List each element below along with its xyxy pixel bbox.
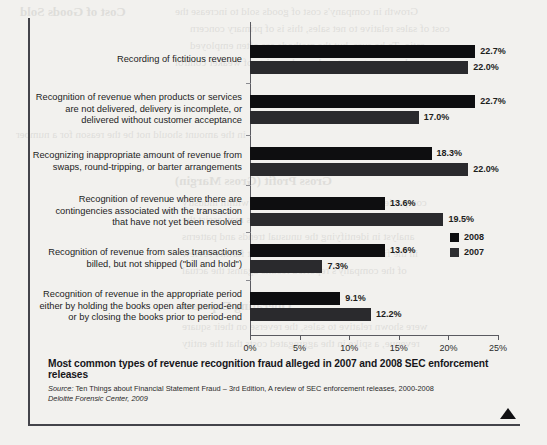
category-label-line: contingencies associated with the transa… bbox=[27, 206, 242, 217]
bar-2007 bbox=[250, 163, 468, 176]
category-label-line: Recording of fictitious revenue bbox=[27, 54, 242, 65]
bar-value-label: 9.1% bbox=[345, 292, 366, 305]
legend-swatch-2007 bbox=[450, 248, 459, 257]
x-axis-tick bbox=[349, 335, 350, 340]
bar-value-label: 18.3% bbox=[437, 147, 463, 160]
category-label: Recognition of revenue from sales transa… bbox=[27, 247, 242, 270]
category-label-line: are not delivered, delivery is incomplet… bbox=[27, 104, 242, 115]
source-prefix: Source: bbox=[48, 384, 73, 393]
x-axis-tick-label: 5% bbox=[293, 343, 306, 353]
x-axis-tick-label: 0% bbox=[243, 343, 256, 353]
bar-value-label: 22.0% bbox=[473, 61, 499, 74]
bar-value-label: 12.2% bbox=[376, 308, 402, 321]
chart-caption: Most common types of revenue recognition… bbox=[48, 358, 508, 380]
bar-2008 bbox=[250, 95, 475, 108]
bar-value-label: 22.7% bbox=[480, 95, 506, 108]
chart-source-note: Source: Ten Things about Financial State… bbox=[48, 384, 503, 404]
x-axis-tick bbox=[300, 335, 301, 340]
bar-value-label: 19.5% bbox=[448, 213, 474, 226]
chart-plot-area: Recording of fictitious revenue22.7%22.0… bbox=[28, 22, 520, 342]
legend-label-2008: 2008 bbox=[464, 232, 484, 242]
category-label: Recognition of revenue where there areco… bbox=[27, 194, 242, 228]
legend-item: 2007 bbox=[450, 247, 484, 257]
category-label-line: Recognition of revenue when products or … bbox=[27, 92, 242, 103]
bar-2007 bbox=[250, 308, 371, 321]
x-axis-line bbox=[250, 335, 498, 336]
bar-2007 bbox=[250, 111, 419, 124]
x-axis-tick-label: 15% bbox=[390, 343, 408, 353]
category-label: Recording of fictitious revenue bbox=[27, 54, 242, 65]
bar-2008 bbox=[250, 197, 385, 210]
y-axis-tick bbox=[246, 280, 251, 281]
source-line-1: Source: Ten Things about Financial State… bbox=[48, 384, 503, 394]
x-axis-tick-label: 25% bbox=[489, 343, 507, 353]
x-axis-tick bbox=[448, 335, 449, 340]
x-axis-tick bbox=[250, 335, 251, 340]
chart-category-group: Recognition of revenue from sales transa… bbox=[28, 244, 520, 273]
y-axis-tick bbox=[246, 135, 251, 136]
chart-legend: 2008 2007 bbox=[450, 232, 484, 262]
legend-swatch-2008 bbox=[450, 233, 459, 242]
bleed-text: Growth in company's cost of goods sold t… bbox=[175, 5, 418, 17]
category-label-line: billed, but not shipped ("bill and hold"… bbox=[27, 259, 242, 270]
source-line-2: Deloitte Forensic Center, 2009 bbox=[48, 394, 503, 404]
bar-2008 bbox=[250, 45, 475, 58]
chart-category-group: Recognizing inappropriate amount of reve… bbox=[28, 147, 520, 176]
bar-2008 bbox=[250, 292, 340, 305]
y-axis-tick bbox=[246, 83, 251, 84]
source-text: Ten Things about Financial Statement Fra… bbox=[73, 384, 433, 393]
bar-value-label: 13.6% bbox=[390, 197, 416, 210]
x-axis-tick-label: 10% bbox=[340, 343, 358, 353]
bar-2007 bbox=[250, 61, 468, 74]
category-label-line: Recognition of revenue in the appropriat… bbox=[27, 289, 242, 300]
chart-category-group: Recognition of revenue in the appropriat… bbox=[28, 292, 520, 321]
category-label: Recognizing inappropriate amount of reve… bbox=[27, 150, 242, 173]
legend-label-2007: 2007 bbox=[464, 247, 484, 257]
category-label-line: Recognition of revenue where there are bbox=[27, 194, 242, 205]
category-label-line: Recognition of revenue from sales transa… bbox=[27, 247, 242, 258]
chart-category-group: Recognition of revenue when products or … bbox=[28, 95, 520, 124]
y-axis-tick bbox=[246, 232, 251, 233]
x-axis-tick bbox=[498, 335, 499, 340]
bar-2008 bbox=[250, 244, 385, 257]
bar-value-label: 17.0% bbox=[424, 111, 450, 124]
category-label-line: swaps, round-tripping, or barter arrange… bbox=[27, 162, 242, 173]
legend-item: 2008 bbox=[450, 232, 484, 242]
bar-value-label: 22.0% bbox=[473, 163, 499, 176]
x-axis-tick bbox=[399, 335, 400, 340]
category-label: Recognition of revenue in the appropriat… bbox=[27, 289, 242, 323]
chart-category-group: Recognition of revenue where there areco… bbox=[28, 197, 520, 226]
chart-category-group: Recording of fictitious revenue22.7%22.0… bbox=[28, 45, 520, 74]
corner-triangle-marker bbox=[500, 408, 516, 419]
bar-2007 bbox=[250, 260, 322, 273]
bar-value-label: 22.7% bbox=[480, 45, 506, 58]
category-label-line: either by holding the books open after p… bbox=[27, 301, 242, 312]
category-label-line: delivered without customer acceptance bbox=[27, 115, 242, 126]
bar-value-label: 7.3% bbox=[327, 260, 348, 273]
y-axis-tick bbox=[246, 185, 251, 186]
category-label: Recognition of revenue when products or … bbox=[27, 92, 242, 126]
bar-2008 bbox=[250, 147, 432, 160]
bar-value-label: 13.6% bbox=[390, 244, 416, 257]
x-axis-tick-label: 20% bbox=[439, 343, 457, 353]
category-label-line: Recognizing inappropriate amount of reve… bbox=[27, 150, 242, 161]
category-label-line: that have not yet been resolved bbox=[27, 217, 242, 228]
bar-2007 bbox=[250, 213, 443, 226]
category-label-line: or by closing the books prior to period-… bbox=[27, 312, 242, 323]
